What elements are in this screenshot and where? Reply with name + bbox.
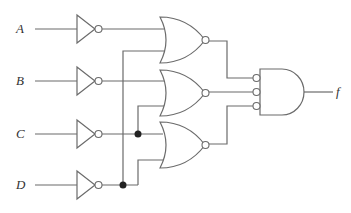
junction-d [120, 182, 127, 189]
nor-gate-3 [160, 122, 209, 168]
input-label-c: C [16, 127, 25, 140]
input-label-a: A [16, 22, 24, 35]
output-label-f: f [336, 85, 340, 98]
and-gate-output [253, 69, 304, 115]
input-wires [35, 29, 77, 185]
circuit-drawing [0, 0, 351, 213]
logic-circuit-diagram: A B C D f [0, 0, 351, 213]
not-gate-d [77, 171, 102, 199]
input-label-d: D [16, 178, 25, 191]
not-gate-b [77, 67, 102, 95]
nor-gate-2 [160, 70, 209, 116]
junction-c [135, 131, 142, 138]
nor-gate-1 [160, 17, 209, 63]
not-gate-a [77, 15, 102, 43]
not-gate-c [77, 120, 102, 148]
input-label-b: B [16, 74, 24, 87]
